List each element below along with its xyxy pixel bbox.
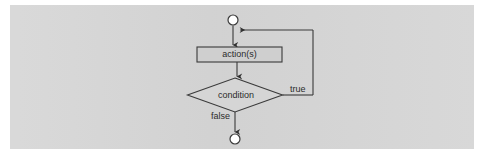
figure-page: true action(s) condition false — [0, 0, 484, 163]
edge-label-true: true — [290, 84, 306, 94]
node-action-state: action(s) — [197, 47, 282, 62]
final-state-circle — [230, 134, 240, 144]
edge-condition-false-end: false — [211, 111, 235, 132]
initial-state-circle — [228, 15, 238, 25]
edge-label-false: false — [211, 111, 230, 121]
action-state-label: action(s) — [222, 49, 257, 59]
node-final-state — [230, 134, 240, 144]
figure-caption — [10, 152, 474, 163]
activity-diagram: true action(s) condition false — [0, 0, 484, 163]
node-decision: condition — [188, 78, 283, 112]
node-initial-state — [228, 15, 238, 25]
decision-label: condition — [218, 90, 254, 100]
